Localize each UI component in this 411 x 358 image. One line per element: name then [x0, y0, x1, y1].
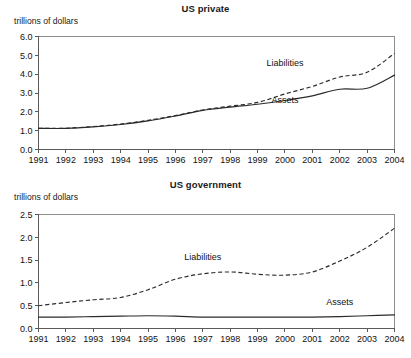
- chart-panel-us-government: US government trillions of dollars 0.00.…: [0, 176, 411, 358]
- y-tick-label: 4.0: [20, 69, 33, 79]
- series-line-liabilities: [39, 53, 395, 128]
- x-tick-label: 1999: [248, 155, 268, 165]
- x-tick-label: 1997: [193, 334, 213, 344]
- x-tick-label: 2001: [302, 334, 322, 344]
- line-chart-us-private: 0.01.02.03.04.05.06.01991199219931994199…: [0, 28, 411, 170]
- x-tick-label: 2003: [357, 334, 377, 344]
- series-label-liabilities: Liabilities: [266, 58, 304, 68]
- x-tick-label: 1993: [83, 334, 103, 344]
- x-tick-label: 1994: [111, 155, 131, 165]
- x-tick-label: 1999: [248, 334, 268, 344]
- y-axis-caption-top: trillions of dollars: [0, 15, 411, 28]
- y-tick-label: 3.0: [20, 88, 33, 98]
- x-tick-label: 1998: [220, 155, 240, 165]
- x-tick-label: 2004: [384, 334, 404, 344]
- x-tick-label: 2004: [384, 155, 404, 165]
- y-tick-label: 6.0: [20, 32, 33, 42]
- series-line-liabilities: [39, 228, 395, 306]
- y-tick-label: 1.0: [20, 126, 33, 136]
- x-tick-label: 1991: [28, 155, 48, 165]
- series-line-assets: [39, 75, 395, 128]
- x-tick-label: 1991: [28, 334, 48, 344]
- line-chart-us-government: 0.00.51.01.52.02.51991199219931994199519…: [0, 204, 411, 352]
- y-tick-label: 1.5: [20, 255, 33, 265]
- x-tick-label: 2002: [330, 155, 350, 165]
- y-tick-label: 1.0: [20, 278, 33, 288]
- x-tick-label: 2001: [302, 155, 322, 165]
- x-tick-label: 1997: [193, 155, 213, 165]
- x-tick-label: 1993: [83, 155, 103, 165]
- x-tick-label: 1992: [56, 155, 76, 165]
- series-label-assets: Assets: [271, 95, 299, 105]
- x-tick-label: 1995: [138, 334, 158, 344]
- x-tick-label: 1994: [111, 334, 131, 344]
- series-label-assets: Assets: [326, 297, 354, 307]
- chart-title-top: US private: [0, 0, 411, 15]
- x-tick-label: 1996: [165, 334, 185, 344]
- x-tick-label: 1992: [56, 334, 76, 344]
- chart-panel-us-private: US private trillions of dollars 0.01.02.…: [0, 0, 411, 176]
- y-tick-label: 0.0: [20, 145, 33, 155]
- x-tick-label: 2002: [330, 334, 350, 344]
- x-tick-label: 2000: [275, 334, 295, 344]
- y-axis-caption-bottom: trillions of dollars: [0, 191, 411, 204]
- y-tick-label: 5.0: [20, 51, 33, 61]
- chart-title-bottom: US government: [0, 176, 411, 191]
- y-tick-label: 2.0: [20, 107, 33, 117]
- y-tick-label: 2.0: [20, 233, 33, 243]
- plot-area-top: 0.01.02.03.04.05.06.01991199219931994199…: [0, 28, 411, 170]
- x-tick-label: 2003: [357, 155, 377, 165]
- y-tick-label: 0.0: [20, 324, 33, 334]
- x-tick-label: 1998: [220, 334, 240, 344]
- y-tick-label: 2.5: [20, 210, 33, 220]
- y-tick-label: 0.5: [20, 301, 33, 311]
- series-line-assets: [39, 315, 395, 317]
- x-tick-label: 1995: [138, 155, 158, 165]
- x-tick-label: 2000: [275, 155, 295, 165]
- series-label-liabilities: Liabilities: [184, 252, 222, 262]
- plot-area-bottom: 0.00.51.01.52.02.51991199219931994199519…: [0, 204, 411, 352]
- x-tick-label: 1996: [165, 155, 185, 165]
